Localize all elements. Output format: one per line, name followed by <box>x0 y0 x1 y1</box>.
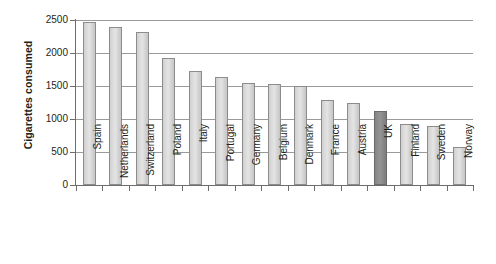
x-tick-label-switzerland: Switzerland <box>146 124 156 194</box>
y-tick-label: 500 <box>28 147 68 157</box>
x-tick-label-uk: UK <box>384 124 394 194</box>
x-tick-label-finland: Finland <box>411 124 421 194</box>
y-tick-label: 1000 <box>28 114 68 124</box>
x-tick-label-netherlands: Netherlands <box>120 124 130 194</box>
bar-chart: Cigarettes consumed 05001000150020002500… <box>0 0 496 264</box>
x-axis-tick-labels: SpainNetherlandsSwitzerlandPolandItalyPo… <box>76 192 473 264</box>
x-tick-label-italy: Italy <box>199 124 209 194</box>
x-tick-label-norway: Norway <box>464 124 474 194</box>
x-tick-mark <box>394 186 395 191</box>
x-tick-label-austria: Austria <box>358 124 368 194</box>
x-tick-mark <box>341 186 342 191</box>
x-tick-mark <box>76 186 77 191</box>
y-axis-tick-labels: 05001000150020002500 <box>26 0 68 264</box>
x-tick-label-germany: Germany <box>252 124 262 194</box>
x-tick-label-poland: Poland <box>173 124 183 194</box>
y-tick-label: 0 <box>28 180 68 190</box>
y-tick-label: 2000 <box>28 48 68 58</box>
x-tick-label-sweden: Sweden <box>437 124 447 194</box>
x-tick-label-france: France <box>331 124 341 194</box>
x-tick-label-spain: Spain <box>93 124 103 194</box>
x-tick-label-portugal: Portugal <box>226 124 236 194</box>
y-tick-label: 2500 <box>28 15 68 25</box>
y-tick-label: 1500 <box>28 81 68 91</box>
x-tick-label-denmark: Denmark <box>305 124 315 194</box>
x-tick-mark <box>447 186 448 191</box>
x-tick-label-belgium: Belgium <box>279 124 289 194</box>
